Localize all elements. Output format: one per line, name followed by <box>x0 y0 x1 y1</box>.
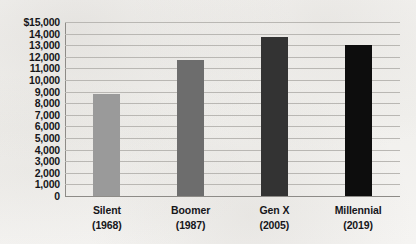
category-year: (2019) <box>310 218 406 233</box>
category-label-boomer: Boomer(1987) <box>143 203 239 233</box>
category-year: (2005) <box>226 218 322 233</box>
y-tick-label: 14,000 <box>29 28 60 40</box>
category-name: Boomer <box>171 204 210 216</box>
bar-silent <box>93 94 120 196</box>
bar-boomer <box>177 60 204 196</box>
y-tick-label: 8,000 <box>35 97 60 109</box>
y-tick-label: 7,000 <box>35 109 60 121</box>
y-tick-label: 10,000 <box>29 74 60 86</box>
category-label-gen-x: Gen X(2005) <box>226 203 322 233</box>
category-name: Millennial <box>335 204 382 216</box>
y-tick-label: 5,000 <box>35 132 60 144</box>
y-axis-tick-labels: $15,00014,00013,00012,00011,00010,0009,0… <box>0 22 60 196</box>
category-year: (1968) <box>59 218 155 233</box>
category-year: (1987) <box>143 218 239 233</box>
gridline-15000 <box>65 22 400 23</box>
y-tick-label: 12,000 <box>29 51 60 63</box>
y-tick-label: 4,000 <box>35 144 60 156</box>
bar-millennial <box>345 45 372 196</box>
y-tick-label: 3,000 <box>35 155 60 167</box>
y-tick-label: 6,000 <box>35 120 60 132</box>
y-tick-label: 13,000 <box>29 39 60 51</box>
category-name: Silent <box>93 204 121 216</box>
gridline-0 <box>65 196 400 197</box>
bar-chart: $15,00014,00013,00012,00011,00010,0009,0… <box>0 0 416 244</box>
y-tick-label: $15,000 <box>23 16 60 28</box>
y-tick-label: 2,000 <box>35 167 60 179</box>
y-tick-label: 11,000 <box>30 62 60 74</box>
category-label-millennial: Millennial(2019) <box>310 203 406 233</box>
category-label-silent: Silent(1968) <box>59 203 155 233</box>
category-name: Gen X <box>259 204 289 216</box>
y-tick-label: 9,000 <box>35 86 60 98</box>
y-tick-label: 1,000 <box>35 178 60 190</box>
y-tick-label: 0 <box>54 190 60 202</box>
gridline-14000 <box>65 34 400 35</box>
bar-gen-x <box>261 37 288 196</box>
plot-area <box>65 22 400 196</box>
